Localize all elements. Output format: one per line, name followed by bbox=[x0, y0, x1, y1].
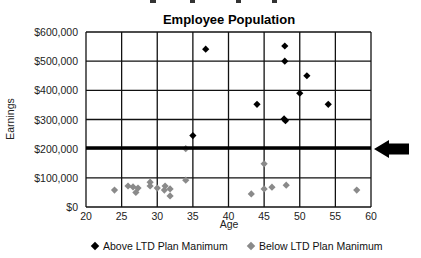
x-tick-label: 30 bbox=[151, 210, 163, 222]
y-tick-label: $400,000 bbox=[34, 84, 78, 96]
x-tick-label: 60 bbox=[365, 210, 377, 222]
x-axis-label: Age bbox=[220, 218, 239, 230]
y-tick-label: $600,000 bbox=[34, 26, 78, 38]
x-tick-label: 45 bbox=[258, 210, 270, 222]
y-axis-ticks: $0$100,000$200,000$300,000$400,000$500,0… bbox=[34, 26, 78, 213]
gray-diamond-icon bbox=[247, 242, 255, 250]
diamond-marker-icon bbox=[261, 160, 268, 167]
diamond-marker-icon bbox=[261, 185, 268, 192]
chart-legend: Above LTD Plan Manimum Below LTD Plan Ma… bbox=[0, 240, 421, 256]
diamond-marker-icon bbox=[166, 192, 173, 199]
left-arrow-icon bbox=[374, 140, 409, 158]
x-tick-label: 35 bbox=[187, 210, 199, 222]
y-tick-label: $100,000 bbox=[34, 172, 78, 184]
diamond-marker-icon bbox=[268, 184, 275, 191]
legend-item-above: Above LTD Plan Manimum bbox=[92, 240, 228, 252]
diamond-marker-icon bbox=[281, 42, 288, 49]
x-tick-label: 25 bbox=[116, 210, 128, 222]
legend-label-below: Below LTD Plan Manimum bbox=[259, 240, 383, 252]
x-tick-label: 50 bbox=[294, 210, 306, 222]
legend-item-below: Below LTD Plan Manimum bbox=[248, 240, 383, 252]
y-tick-label: $500,000 bbox=[34, 55, 78, 67]
diamond-marker-icon bbox=[325, 101, 332, 108]
diamond-marker-icon bbox=[353, 186, 360, 193]
black-diamond-icon bbox=[91, 242, 99, 250]
diamond-marker-icon bbox=[154, 184, 161, 191]
x-tick-label: 20 bbox=[80, 210, 92, 222]
y-tick-label: $300,000 bbox=[34, 114, 78, 126]
diamond-marker-icon bbox=[248, 190, 255, 197]
scatter-chart: Employee Population $0$100,000$200,000$3… bbox=[0, 0, 421, 258]
x-tick-label: 55 bbox=[330, 210, 342, 222]
diamond-marker-icon bbox=[283, 182, 290, 189]
diamond-marker-icon bbox=[202, 46, 209, 53]
diamond-marker-icon bbox=[147, 182, 154, 189]
data-points bbox=[111, 42, 360, 199]
diamond-marker-icon bbox=[253, 101, 260, 108]
diamond-marker-icon bbox=[303, 72, 310, 79]
diamond-marker-icon bbox=[111, 186, 118, 193]
diamond-marker-icon bbox=[281, 58, 288, 65]
y-axis-label: Earnings bbox=[4, 98, 16, 139]
plot-grid bbox=[86, 32, 371, 207]
chart-title: Employee Population bbox=[163, 12, 295, 27]
legend-label-above: Above LTD Plan Manimum bbox=[103, 240, 228, 252]
diamond-marker-icon bbox=[189, 132, 196, 139]
y-tick-label: $200,000 bbox=[34, 143, 78, 155]
y-tick-label: $0 bbox=[66, 201, 78, 213]
